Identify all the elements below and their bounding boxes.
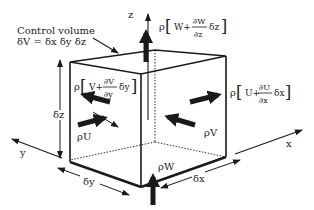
x-axis [235, 130, 302, 154]
svg-text:∂U: ∂U [259, 83, 270, 92]
svg-text:∂z: ∂z [194, 30, 202, 39]
svg-text:[: [ [236, 83, 242, 102]
flux-arrow-u-out [190, 95, 218, 102]
axis-x-label: x [286, 138, 292, 149]
axis-y-label: y [19, 147, 26, 158]
svg-text:∂y: ∂y [104, 90, 113, 99]
svg-text:∂V: ∂V [104, 77, 114, 86]
svg-text:[: [ [165, 17, 171, 36]
dim-y-label: δy [83, 176, 95, 187]
svg-text:V+: V+ [88, 82, 103, 92]
svg-text:δz: δz [209, 22, 219, 32]
flux-arrow-u-in [78, 118, 104, 125]
flux-v-in-label: ρV [204, 127, 218, 138]
svg-text:δx: δx [274, 88, 285, 98]
control-volume-diagram: Control volume δV = δx δy δz z x y δz δy… [0, 0, 314, 210]
label-pointer [93, 38, 118, 53]
dim-x-label: δx [193, 173, 205, 184]
volume-equation: δV = δx δy δz [17, 36, 86, 47]
svg-text:]: ] [131, 77, 137, 96]
svg-text:[: [ [80, 77, 86, 96]
flux-w-in-label: ρW [158, 161, 175, 172]
flux-u-out-expression: ρ [ U+ ∂U ∂x δx ] [230, 83, 291, 105]
control-volume-label: Control volume [17, 25, 95, 36]
svg-text:W+: W+ [174, 22, 191, 32]
flux-u-in-label: ρU [77, 131, 91, 142]
svg-text:U+: U+ [245, 88, 260, 98]
svg-text:δy: δy [119, 82, 130, 92]
flux-arrow-v-in [168, 117, 195, 125]
dim-z-label: δz [53, 109, 64, 120]
svg-text:∂x: ∂x [259, 96, 268, 105]
svg-text:∂W: ∂W [193, 17, 206, 26]
svg-text:]: ] [221, 17, 227, 36]
flux-v-out-expression: ρ [ V+ ∂V ∂y δy ] [74, 77, 137, 99]
flux-w-out-expression: ρ [ W+ ∂W ∂z δz ] [159, 17, 227, 39]
svg-text:]: ] [285, 83, 291, 102]
axis-z-label: z [128, 9, 133, 20]
